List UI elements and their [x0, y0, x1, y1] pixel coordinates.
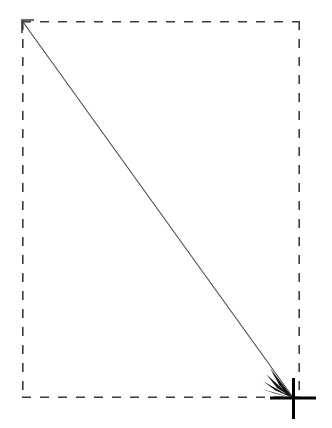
- diagram-svg: [0, 0, 332, 428]
- canvas-background: [0, 0, 332, 428]
- diagram-canvas: [0, 0, 332, 428]
